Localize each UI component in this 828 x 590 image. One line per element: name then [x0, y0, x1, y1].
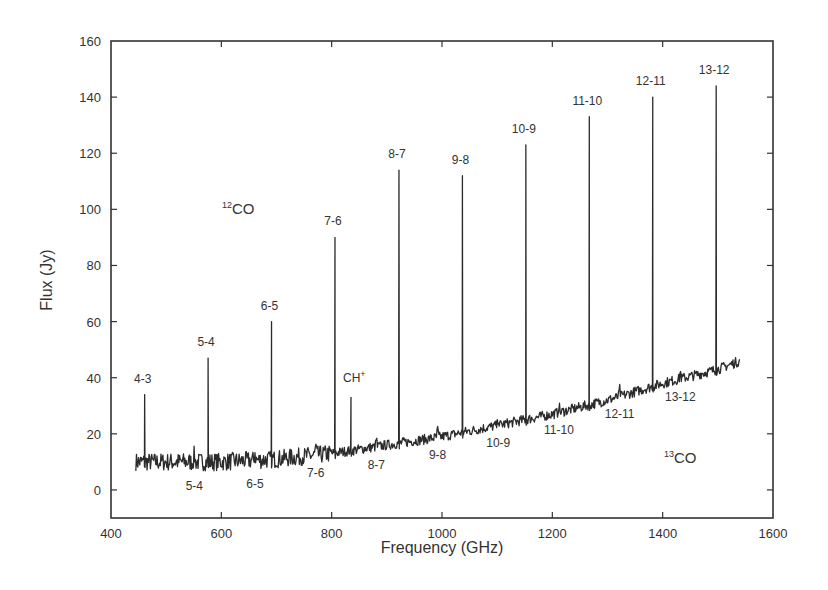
- co12-transition-label: 5-4: [197, 335, 215, 349]
- co12-transition-label: 8-7: [388, 147, 406, 161]
- x-tick-label: 1600: [759, 526, 788, 541]
- co13-transition-label: 5-4: [186, 479, 204, 493]
- x-tick-label: 1400: [648, 526, 677, 541]
- x-tick-label: 600: [210, 526, 232, 541]
- line-annotations: 4-35-46-57-68-79-810-911-1012-1113-125-4…: [134, 63, 730, 493]
- y-tick-label: 160: [79, 34, 101, 49]
- co12-transition-label: 13-12: [699, 63, 730, 77]
- chplus-label: CH+: [343, 369, 366, 385]
- x-axis-title: Frequency (GHz): [381, 539, 504, 556]
- y-tick-label: 140: [79, 90, 101, 105]
- plot-frame: [111, 41, 773, 518]
- x-tick-label: 1200: [538, 526, 567, 541]
- co12-transition-label: 11-10: [572, 94, 602, 108]
- co12-transition-label: 4-3: [134, 372, 152, 386]
- y-tick-label: 100: [79, 202, 101, 217]
- y-tick-label: 0: [94, 483, 101, 498]
- co12-transition-label: 12-11: [636, 74, 666, 88]
- spectrum-line: [136, 86, 740, 471]
- y-tick-label: 80: [87, 258, 101, 273]
- y-axis-title: Flux (Jy): [38, 249, 55, 310]
- co13-transition-label: 7-6: [307, 466, 325, 480]
- spectrum-chart: 4006008001000120014001600020406080100120…: [0, 0, 828, 590]
- co13-transition-label: 9-8: [429, 448, 447, 462]
- y-tick-label: 40: [87, 371, 101, 386]
- co13-transition-label: 10-9: [486, 436, 510, 450]
- co13-transition-label: 11-10: [544, 423, 574, 437]
- spectrum-trace: [136, 86, 740, 471]
- co13-transition-label: 6-5: [246, 477, 264, 491]
- isotope-label-13co: 13CO: [664, 449, 697, 466]
- y-tick-label: 60: [87, 315, 101, 330]
- co13-transition-label: 12-11: [605, 407, 635, 421]
- isotope-label-12co: 12CO: [222, 200, 255, 217]
- x-tick-label: 800: [321, 526, 343, 541]
- co13-transition-label: 13-12: [665, 390, 696, 404]
- y-tick-label: 20: [87, 427, 101, 442]
- co12-transition-label: 7-6: [324, 214, 342, 228]
- y-tick-label: 120: [79, 146, 101, 161]
- x-tick-label: 400: [100, 526, 122, 541]
- co13-transition-label: 8-7: [368, 458, 386, 472]
- co12-transition-label: 9-8: [452, 153, 470, 167]
- co12-transition-label: 10-9: [512, 122, 536, 136]
- co12-transition-label: 6-5: [261, 299, 279, 313]
